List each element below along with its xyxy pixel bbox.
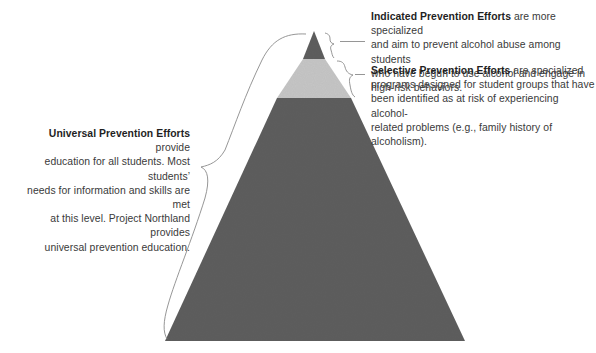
annotation-universal-line: provide: [156, 142, 190, 153]
pyramid-tier-selective: [277, 59, 351, 98]
annotation-universal-line: education for all students. Most student…: [45, 156, 190, 181]
annotation-selective-title: Selective Prevention Efforts: [371, 65, 510, 76]
annotation-universal: Universal Prevention Efforts provide edu…: [20, 127, 190, 255]
brace-indicated: [325, 33, 334, 58]
annotation-universal-line: universal prevention education.: [45, 242, 190, 253]
annotation-universal-line: at this level. Project Northland provide…: [50, 213, 190, 238]
annotation-universal-title: Universal Prevention Efforts: [49, 128, 190, 139]
annotation-indicated-line: and aim to prevent alcohol abuse among s…: [371, 39, 561, 64]
annotation-selective: Selective Prevention Efforts are special…: [371, 64, 596, 149]
pyramid-tier-indicated: [303, 31, 325, 59]
annotation-selective-line: programs designed for student groups tha…: [371, 79, 595, 90]
annotation-selective-line: related problems (e.g., family history o…: [371, 122, 552, 147]
annotation-selective-line: been identified as at risk of experienci…: [371, 93, 559, 118]
annotation-selective-line: are specialized: [510, 65, 583, 76]
annotation-indicated-title: Indicated Prevention Efforts: [371, 11, 511, 22]
annotation-universal-line: needs for information and skills are met: [27, 185, 190, 210]
